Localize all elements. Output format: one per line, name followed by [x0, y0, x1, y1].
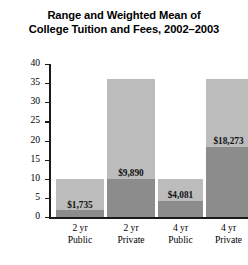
- y-tick-5: 5: [45, 198, 49, 199]
- y-tick-label-35: 35: [30, 76, 40, 87]
- y-tick-label-10: 10: [30, 172, 40, 183]
- y-tick-label-15: 15: [30, 153, 40, 164]
- y-tick-label-20: 20: [30, 134, 40, 145]
- bar-mean-2yr-public: [56, 210, 104, 217]
- bar-group-2yr-private: $9,890: [107, 79, 155, 217]
- y-tick-label-40: 40: [30, 57, 40, 68]
- bar-group-4yr-private: $18,273: [206, 79, 248, 217]
- y-tick-label-5: 5: [35, 191, 40, 202]
- y-axis-line: [49, 64, 51, 218]
- x-category-label-4yr-private: 4 yr Private: [206, 222, 248, 245]
- bar-value-label-2yr-public: $1,735: [56, 200, 104, 210]
- bar-value-label-4yr-public: $4,081: [158, 190, 203, 200]
- y-tick-label-30: 30: [30, 95, 40, 106]
- y-tick-25: 25: [45, 121, 49, 122]
- y-tick-35: 35: [45, 83, 49, 84]
- y-tick-10: 10: [45, 179, 49, 180]
- x-category-label-2yr-private-line1: 2 yr: [107, 222, 155, 234]
- y-tick-30: 30: [45, 102, 49, 103]
- x-category-label-2yr-public-line2: Public: [56, 234, 104, 246]
- chart-title: Range and Weighted Mean of College Tuiti…: [0, 8, 248, 36]
- bar-group-2yr-public: $1,735: [56, 179, 104, 217]
- y-tick-40: 40: [45, 64, 49, 65]
- chart-title-line-2: College Tuition and Fees, 2002–2003: [0, 22, 248, 36]
- y-tick-label-25: 25: [30, 114, 40, 125]
- bar-group-4yr-public: $4,081: [158, 179, 203, 217]
- y-tick-20: 20: [45, 141, 49, 142]
- x-category-label-4yr-private-line2: Private: [206, 234, 248, 246]
- x-category-label-2yr-private: 2 yr Private: [107, 222, 155, 245]
- x-category-label-4yr-public-line1: 4 yr: [158, 222, 203, 234]
- y-tick-15: 15: [45, 160, 49, 161]
- x-axis-line: [49, 217, 248, 219]
- bar-value-label-4yr-private: $18,273: [206, 136, 248, 146]
- x-category-label-4yr-public-line2: Public: [158, 234, 203, 246]
- x-category-label-2yr-public: 2 yr Public: [56, 222, 104, 245]
- plot-area: 0 5 10 15 20 25 30 35 40 $1,735: [49, 64, 248, 218]
- chart-title-line-1: Range and Weighted Mean of: [0, 8, 248, 22]
- x-category-label-4yr-public: 4 yr Public: [158, 222, 203, 245]
- y-tick-label-0: 0: [35, 210, 40, 221]
- chart-figure: Range and Weighted Mean of College Tuiti…: [0, 0, 248, 265]
- bar-mean-4yr-private: [206, 147, 248, 217]
- x-category-label-2yr-public-line1: 2 yr: [56, 222, 104, 234]
- x-category-label-4yr-private-line1: 4 yr: [206, 222, 248, 234]
- bar-mean-4yr-public: [158, 201, 203, 217]
- y-tick-0: 0: [45, 217, 49, 218]
- x-category-label-2yr-private-line2: Private: [107, 234, 155, 246]
- bar-mean-2yr-private: [107, 179, 155, 217]
- bar-value-label-2yr-private: $9,890: [107, 168, 155, 178]
